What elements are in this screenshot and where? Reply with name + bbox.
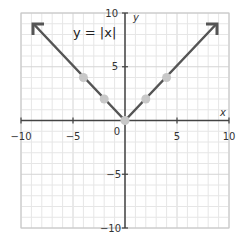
data-point xyxy=(162,73,171,82)
data-point xyxy=(141,95,150,104)
x-tick-5: 5 xyxy=(174,131,180,142)
origin-label: 0 xyxy=(114,126,120,137)
x-tick-neg5: −5 xyxy=(66,131,81,142)
data-point xyxy=(121,116,130,125)
x-tick-10: 10 xyxy=(223,131,236,142)
absolute-value-graph: y = |x| y x 10 5 −5 −10 −10 −5 0 5 10 xyxy=(0,0,240,243)
y-axis-label: y xyxy=(132,12,140,23)
data-point xyxy=(79,73,88,82)
equation-label: y = |x| xyxy=(73,25,116,40)
y-tick-neg5: −5 xyxy=(106,169,121,180)
y-tick-10: 10 xyxy=(105,8,118,19)
data-point xyxy=(100,95,109,104)
y-tick-5: 5 xyxy=(112,61,118,72)
y-tick-neg10: −10 xyxy=(100,223,121,234)
x-axis-label: x xyxy=(219,107,226,118)
x-tick-neg10: −10 xyxy=(10,131,31,142)
